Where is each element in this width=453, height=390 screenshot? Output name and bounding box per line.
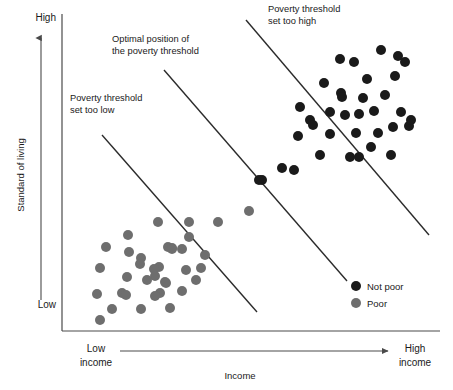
data-point xyxy=(177,244,187,254)
data-point xyxy=(92,289,102,299)
data-point xyxy=(244,206,254,216)
data-point xyxy=(362,74,372,84)
data-point xyxy=(325,129,335,139)
y-axis-high-label: High xyxy=(35,12,56,23)
data-point xyxy=(177,286,187,296)
series-poor xyxy=(92,206,254,325)
data-point xyxy=(386,150,396,160)
data-point xyxy=(191,275,201,285)
x-axis-high-label-line1: High xyxy=(405,343,426,354)
data-point xyxy=(95,263,105,273)
annotation-line: set too low xyxy=(70,105,115,115)
data-point xyxy=(295,102,305,112)
data-point xyxy=(337,92,347,102)
data-point xyxy=(142,275,152,285)
data-point xyxy=(293,131,303,141)
data-point xyxy=(101,242,111,252)
data-point xyxy=(161,278,171,288)
data-point xyxy=(366,142,376,152)
data-point xyxy=(165,303,175,313)
data-point xyxy=(200,250,210,260)
data-point xyxy=(107,304,117,314)
x-axis-high-label-line2: income xyxy=(399,357,432,368)
legend-swatch-not-poor xyxy=(351,281,361,291)
annotation-line: Poverty threshold xyxy=(268,4,340,14)
data-point xyxy=(289,165,299,175)
data-point xyxy=(95,315,105,325)
annotation-line: Poverty threshold xyxy=(70,93,142,103)
annotation-threshold-too-low: Poverty thresholdset too low xyxy=(70,93,142,115)
data-point xyxy=(354,152,364,162)
data-point xyxy=(184,217,194,227)
data-point xyxy=(124,247,134,257)
y-axis-title: Standard of living xyxy=(15,138,26,211)
data-point xyxy=(325,107,335,117)
annotation-threshold-too-high: Poverty thresholdset too high xyxy=(268,4,340,26)
legend: Not poorPoor xyxy=(351,281,403,309)
annotation-line: the poverty threshold xyxy=(112,46,199,56)
data-point xyxy=(406,115,416,125)
data-point xyxy=(196,263,206,273)
data-point xyxy=(373,128,383,138)
data-point xyxy=(135,259,145,269)
data-point xyxy=(213,217,223,227)
data-point xyxy=(354,109,364,119)
scatter-plot-canvas: Poverty thresholdset too lowOptimal posi… xyxy=(0,0,453,390)
data-point xyxy=(184,232,194,242)
data-point xyxy=(121,290,131,300)
data-point xyxy=(150,291,160,301)
data-point xyxy=(396,107,406,117)
data-point xyxy=(315,150,325,160)
annotation-threshold-optimal: Optimal position ofthe poverty threshold xyxy=(112,34,199,56)
legend-swatch-poor xyxy=(351,298,361,308)
data-point xyxy=(349,57,359,67)
x-axis-low-label-line1: Low xyxy=(87,343,106,354)
data-point xyxy=(308,120,318,130)
series-not-poor xyxy=(254,45,416,185)
data-point xyxy=(136,304,146,314)
legend-label-not-poor: Not poor xyxy=(367,281,403,292)
data-point xyxy=(153,217,163,227)
y-axis-low-label: Low xyxy=(38,299,57,310)
data-point xyxy=(345,152,355,162)
legend-label-poor: Poor xyxy=(367,298,387,309)
data-point xyxy=(358,93,368,103)
annotations-group: Poverty thresholdset too lowOptimal posi… xyxy=(70,4,340,115)
data-point xyxy=(277,163,287,173)
data-point xyxy=(340,110,350,120)
data-point xyxy=(181,265,191,275)
data-point xyxy=(254,175,264,185)
data-point xyxy=(351,128,361,138)
data-point xyxy=(388,122,398,132)
data-point xyxy=(122,272,132,282)
threshold-line-too-high xyxy=(246,20,429,235)
data-point xyxy=(319,78,329,88)
x-axis-low-label-line2: income xyxy=(80,357,113,368)
data-point xyxy=(123,230,133,240)
threshold-line-too-low xyxy=(102,135,257,312)
data-point xyxy=(390,71,400,81)
poverty-threshold-figure: Poverty thresholdset too lowOptimal posi… xyxy=(0,0,453,390)
threshold-line-optimal xyxy=(164,70,347,281)
data-point xyxy=(369,106,379,116)
annotation-line: set too high xyxy=(268,16,316,26)
data-point xyxy=(335,54,345,64)
data-point xyxy=(167,244,177,254)
data-point xyxy=(393,51,403,61)
data-point xyxy=(376,45,386,55)
x-axis-title: Income xyxy=(224,370,255,381)
axis-direction-arrows xyxy=(41,38,388,351)
annotation-line: Optimal position of xyxy=(112,34,189,44)
data-point xyxy=(380,90,390,100)
